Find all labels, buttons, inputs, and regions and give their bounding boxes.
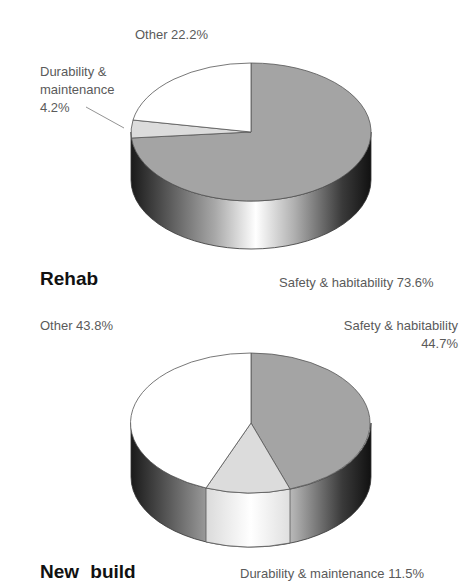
newbuild-pie bbox=[131, 353, 371, 547]
rehab-durability-label-line2: maintenance bbox=[40, 82, 114, 97]
newbuild-safety-label-line1: Safety & habitability bbox=[344, 318, 458, 333]
newbuild-other-label: Other 43.8% bbox=[40, 318, 113, 333]
rehab-pie bbox=[86, 63, 371, 249]
rehab-other-label: Other 22.2% bbox=[135, 27, 208, 42]
rehab-durability-leader bbox=[86, 107, 124, 128]
newbuild-safety-label-line2: 44.7% bbox=[421, 336, 458, 351]
newbuild-durability-side bbox=[206, 488, 290, 547]
rehab-other-wedge bbox=[133, 63, 251, 132]
rehab-title: Rehab bbox=[40, 268, 98, 290]
newbuild-durability-label: Durability & maintenance 11.5% bbox=[240, 566, 424, 581]
rehab-durability-label-line3: 4.2% bbox=[40, 100, 70, 115]
rehab-safety-label: Safety & habitability 73.6% bbox=[279, 275, 434, 290]
newbuild-title: New build bbox=[40, 561, 136, 582]
rehab-durability-label-line1: Durability & bbox=[40, 64, 106, 79]
